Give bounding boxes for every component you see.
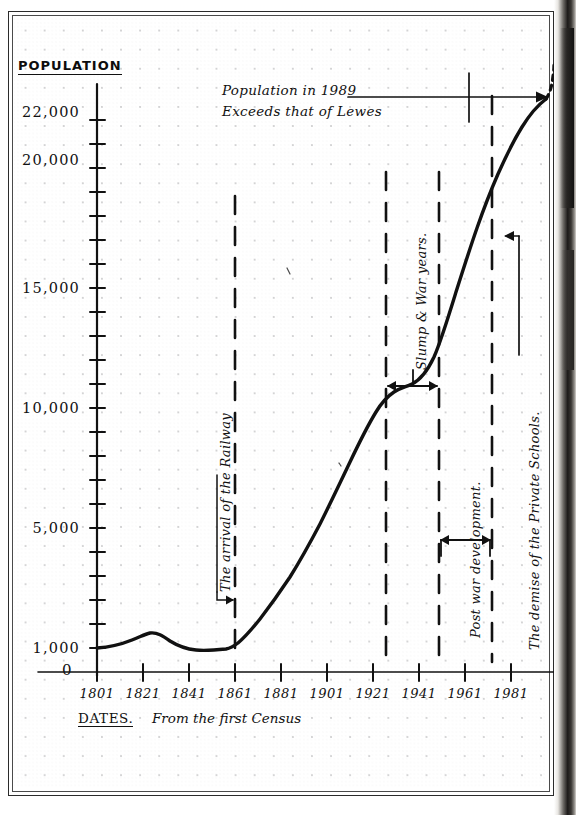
origin-label: 0 — [62, 661, 72, 679]
scan-edge-shadow-lower — [561, 250, 574, 370]
postwar-annotation: Post war development. — [468, 481, 483, 638]
slump-annotation: Slump & War years. — [414, 233, 429, 370]
lewes-annotation-line1: Population in 1989 — [222, 80, 382, 101]
private-schools-annotation: The demise of the Private Schools. — [527, 411, 542, 650]
x-tick-label-1941: 1941 — [401, 686, 436, 701]
chart-text-layer: POPULATION 22,000 20,000 15,000 10,000 5… — [0, 0, 576, 815]
x-axis-note: DATES. From the first Census — [78, 710, 301, 726]
x-tick-label-1921: 1921 — [355, 686, 390, 701]
y-tick-label-15000: 15,000 — [0, 280, 80, 296]
x-tick-label-1901: 1901 — [309, 686, 344, 701]
y-tick-label-22000: 22,000 — [0, 104, 80, 120]
lewes-annotation-line2: Exceeds that of Lewes — [222, 101, 382, 122]
scanned-chart-page: POPULATION 22,000 20,000 15,000 10,000 5… — [0, 0, 576, 815]
scan-edge-shadow-upper — [560, 28, 574, 208]
lewes-annotation: Population in 1989 Exceeds that of Lewes — [222, 80, 382, 122]
y-tick-label-20000: 20,000 — [0, 152, 80, 168]
x-tick-label-1841: 1841 — [171, 686, 206, 701]
y-tick-label-10000: 10,000 — [0, 400, 80, 416]
y-axis-title: POPULATION — [18, 58, 122, 75]
x-tick-label-1961: 1961 — [447, 686, 482, 701]
x-axis-note-text: From the first Census — [152, 710, 301, 726]
x-tick-label-1981: 1981 — [493, 686, 528, 701]
x-tick-label-1881: 1881 — [263, 686, 298, 701]
y-tick-label-1000: 1,000 — [0, 640, 80, 656]
railway-annotation: The arrival of the Railway — [218, 413, 233, 592]
x-tick-label-1861: 1861 — [217, 686, 252, 701]
x-tick-label-1821: 1821 — [125, 686, 160, 701]
x-tick-label-1801: 1801 — [79, 686, 114, 701]
y-tick-label-5000: 5,000 — [0, 520, 80, 536]
x-axis-note-label: DATES. — [78, 710, 133, 727]
